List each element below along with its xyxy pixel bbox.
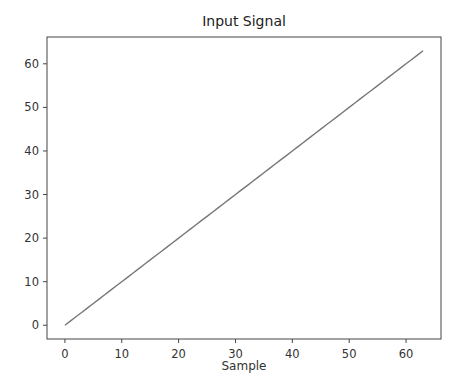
- y-tick-label: 20: [24, 231, 39, 245]
- y-tick-label: 50: [24, 100, 39, 114]
- line-chart: 01020304050600102030405060: [0, 0, 466, 390]
- x-axis-label: Sample: [47, 359, 441, 373]
- y-tick-label: 60: [24, 57, 39, 71]
- signal-line: [65, 51, 423, 326]
- y-tick-label: 30: [24, 188, 39, 202]
- y-tick-label: 40: [24, 144, 39, 158]
- y-tick-label: 10: [24, 275, 39, 289]
- y-tick-label: 0: [32, 318, 39, 332]
